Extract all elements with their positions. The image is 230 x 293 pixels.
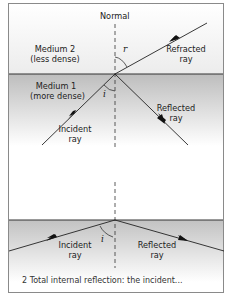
angle-r-label: r bbox=[123, 44, 127, 54]
medium2-name: Medium 2 bbox=[30, 44, 80, 54]
medium1-label: Medium 1 (more dense) bbox=[30, 81, 82, 101]
incident-line1: Incident bbox=[58, 240, 92, 250]
normal-label: Normal bbox=[100, 11, 130, 21]
dense-region-bottom bbox=[9, 220, 223, 282]
medium2-label: Medium 2 (less dense) bbox=[30, 44, 80, 64]
medium1-name: Medium 1 bbox=[30, 81, 82, 91]
reflected-line1: Reflected bbox=[156, 103, 196, 113]
angle-i-label-bottom: i bbox=[101, 234, 104, 244]
figure-caption: 2 Total internal reflection: the inciden… bbox=[22, 276, 182, 285]
angle-i-label: i bbox=[103, 89, 106, 99]
medium1-desc: (more dense) bbox=[30, 91, 82, 101]
refracted-ray-label: Refracted ray bbox=[166, 44, 206, 64]
incident-line2: ray bbox=[58, 250, 92, 260]
incident-line1: Incident bbox=[58, 124, 92, 134]
reflected-ray-label-bottom: Reflected ray bbox=[137, 240, 177, 260]
medium2-desc: (less dense) bbox=[30, 54, 80, 64]
reflected-line1: Reflected bbox=[137, 240, 177, 250]
incident-line2: ray bbox=[58, 134, 92, 144]
incident-ray-label-top: Incident ray bbox=[58, 124, 92, 144]
reflected-line2: ray bbox=[137, 250, 177, 260]
refracted-line2: ray bbox=[166, 54, 206, 64]
refracted-line1: Refracted bbox=[166, 44, 206, 54]
reflected-line2: ray bbox=[156, 113, 196, 123]
incident-ray-label-bottom: Incident ray bbox=[58, 240, 92, 260]
reflected-ray-label-top: Reflected ray bbox=[156, 103, 196, 123]
